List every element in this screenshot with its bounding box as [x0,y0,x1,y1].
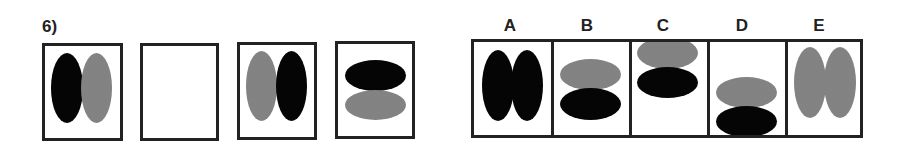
vertical-gray-ellipse [824,47,856,118]
horizontal-black-ellipse [637,67,698,98]
vertical-black-ellipse [511,50,543,121]
sequence-box-3 [237,42,317,140]
option-label-c: C [648,16,678,36]
sequence-box-1 [42,43,123,141]
option-label-b: B [572,16,602,36]
option-a[interactable] [474,42,551,135]
sequence-box-4 [335,41,415,139]
horizontal-gray-ellipse [716,77,777,108]
horizontal-black-ellipse [716,106,777,135]
option-d[interactable] [710,42,785,135]
vertical-gray-ellipse [81,53,112,123]
option-e[interactable] [788,42,863,135]
sequence-box-2-blank[interactable] [140,43,219,141]
option-c[interactable] [632,42,707,135]
question-number: 6) [42,17,57,37]
option-label-a: A [495,16,525,36]
vertical-black-ellipse [51,53,83,123]
vertical-gray-ellipse [246,51,277,121]
answer-options-strip [471,39,863,138]
option-label-e: E [804,16,834,36]
horizontal-gray-ellipse [560,59,621,90]
horizontal-gray-ellipse [637,42,698,69]
horizontal-black-ellipse [560,88,621,120]
vertical-gray-ellipse [794,47,826,118]
horizontal-gray-ellipse [345,90,406,120]
option-b[interactable] [554,42,629,135]
option-label-d: D [727,16,757,36]
vertical-black-ellipse [276,51,307,121]
vertical-black-ellipse [482,50,514,121]
horizontal-black-ellipse [345,60,406,91]
